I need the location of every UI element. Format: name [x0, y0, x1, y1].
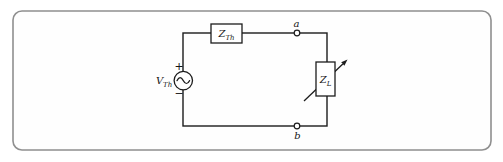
- terminal-b-label: b: [294, 130, 300, 141]
- thevenin-impedance-label-sub: Th: [225, 34, 234, 42]
- terminal-a-label: a: [294, 18, 300, 29]
- terminal-a: a: [294, 18, 300, 36]
- terminal-b-node: [294, 123, 300, 129]
- load-impedance-label-sub: L: [326, 80, 332, 88]
- plus-sign: +: [174, 60, 183, 73]
- minus-sign: −: [174, 87, 183, 100]
- circuit-canvas: ZTh + − VTh ZL a b: [0, 0, 503, 162]
- terminal-b: b: [294, 123, 301, 141]
- thevenin-impedance: ZTh: [211, 24, 242, 43]
- circuit-figure: ZTh + − VTh ZL a b: [0, 0, 503, 162]
- terminal-a-node: [294, 30, 300, 36]
- source-voltage-label-sub: Th: [163, 81, 172, 89]
- figure-frame: [13, 11, 491, 150]
